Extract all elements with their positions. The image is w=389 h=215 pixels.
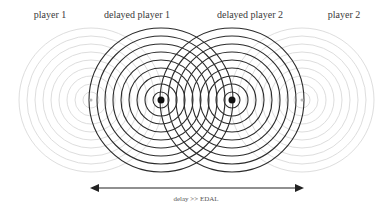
delay-arrow	[90, 184, 304, 192]
wave-diagram	[0, 0, 389, 215]
arrowhead-left-icon	[90, 184, 99, 192]
label-delayed-player-2: delayed player 2	[217, 9, 283, 20]
source-dot	[301, 99, 304, 102]
delay-caption: delay >> EDAL	[173, 195, 218, 203]
faint-rings	[19, 28, 374, 172]
source-dot	[229, 97, 236, 104]
source-dot	[158, 97, 165, 104]
arrowhead-right-icon	[295, 184, 304, 192]
label-player-2: player 2	[328, 9, 361, 20]
source-dot	[90, 99, 93, 102]
label-delayed-player-1: delayed player 1	[104, 9, 170, 20]
label-player-1: player 1	[34, 9, 67, 20]
dark-rings	[89, 28, 304, 172]
